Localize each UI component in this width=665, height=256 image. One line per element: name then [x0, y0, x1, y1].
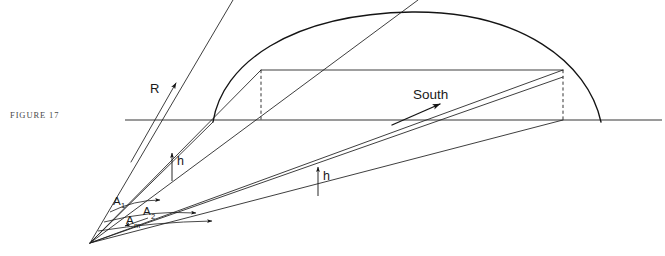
angle-label-a1-sub: 1 [121, 201, 125, 210]
figure-container: FIGURE 17 A 1 A 2 A [0, 0, 665, 256]
figure-diagram: FIGURE 17 A 1 A 2 A [0, 0, 665, 256]
angle-label-am-base: A [126, 214, 134, 226]
ray-south-lower [90, 77, 563, 243]
resultant-label-r: R [150, 81, 159, 96]
height-label-right: h [323, 169, 330, 183]
sun-path-dome-arc [213, 12, 601, 122]
angle-label-a2-base: A [143, 205, 151, 217]
ray-mid-upper [90, 0, 418, 243]
figure-caption: FIGURE 17 [10, 110, 59, 120]
ray-south-upper [90, 70, 563, 243]
height-label-left: h [177, 154, 184, 168]
ray-steep-inner [90, 70, 261, 243]
ray-steep-outer [90, 0, 233, 243]
angle-label-a2-sub: 2 [151, 212, 155, 221]
ray-mid-lower [90, 122, 213, 243]
angle-label-a1-base: A [113, 195, 121, 207]
angle-label-am: A m [126, 214, 140, 230]
angle-label-a2: A 2 [143, 205, 155, 221]
angle-label-am-sub: m [134, 221, 140, 230]
south-arrow-line [392, 104, 440, 125]
south-label: South [413, 87, 448, 102]
